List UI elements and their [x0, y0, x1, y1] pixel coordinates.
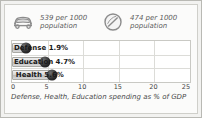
- stat-cars-unit: population: [40, 22, 77, 30]
- bar-label: Health 5.6%: [16, 70, 64, 80]
- chart: Defense 1.9%Education 4.7%Health 5.6% 05…: [11, 40, 191, 109]
- x-tick-label: 5: [45, 83, 49, 91]
- stat-cars-value: 539 per 1000: [40, 14, 87, 22]
- x-axis: 0510152025: [11, 83, 191, 93]
- x-tick-label: 10: [78, 83, 86, 91]
- car-icon: [11, 11, 35, 33]
- widget-frame: 539 per 1000 population 474 per 1000 pop…: [0, 0, 202, 118]
- x-tick-label: 25: [182, 83, 190, 91]
- stat-phones-text: 474 per 1000 population: [130, 14, 177, 31]
- x-tick-label: 0: [11, 83, 15, 91]
- stat-phones-unit: population: [130, 22, 167, 30]
- stats-strip: 539 per 1000 population 474 per 1000 pop…: [5, 5, 197, 39]
- ball-icon: [101, 11, 125, 33]
- bar-label: Education 4.7%: [14, 57, 75, 67]
- chart-caption: Defense, Health, Education spending as %…: [11, 93, 191, 101]
- stat-phones: 474 per 1000 population: [101, 11, 191, 33]
- bar-label: Defense 1.9%: [14, 43, 68, 53]
- stat-phones-value: 474 per 1000: [130, 14, 177, 22]
- widget-inner-panel: 539 per 1000 population 474 per 1000 pop…: [4, 4, 198, 114]
- stat-cars: 539 per 1000 population: [11, 11, 101, 33]
- stat-cars-text: 539 per 1000 population: [40, 14, 87, 31]
- x-tick-label: 20: [149, 83, 157, 91]
- x-tick-label: 15: [114, 83, 122, 91]
- plot-area: Defense 1.9%Education 4.7%Health 5.6%: [11, 40, 191, 83]
